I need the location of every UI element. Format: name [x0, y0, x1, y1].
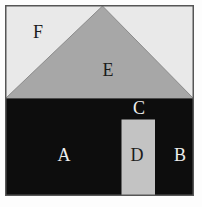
figure-canvas: F E C A D B [0, 0, 202, 207]
region-label-a: A [58, 146, 71, 164]
region-label-f: F [33, 23, 43, 41]
lower-region [6, 99, 194, 196]
region-label-c: C [133, 99, 145, 117]
region-label-b: B [174, 146, 186, 164]
region-label-e: E [103, 61, 114, 79]
region-label-d: D [131, 146, 144, 164]
